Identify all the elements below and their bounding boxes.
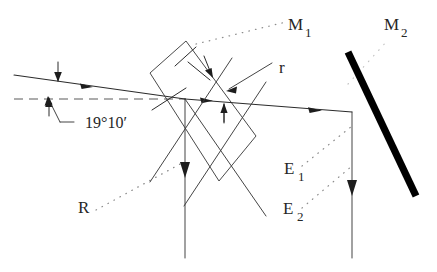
construction-line-c xyxy=(185,99,266,216)
mirror-m1-label-base: M xyxy=(288,15,303,34)
mirror-m1-label-sub: 1 xyxy=(305,25,312,40)
reflected-beam-label: R xyxy=(78,198,90,217)
mirror-m2-label-base: M xyxy=(384,15,399,34)
guide-to-e1 xyxy=(302,126,352,166)
screen-e1-label-base: E xyxy=(284,159,294,178)
screen-e1-label-sub: 1 xyxy=(298,169,305,184)
guide-to-r xyxy=(96,163,182,210)
screen-e1-label: E 1 xyxy=(284,159,305,184)
mirror-m1-label: M 1 xyxy=(288,15,312,40)
angle-of-incidence-marker xyxy=(45,62,74,122)
mirror-m2-label-sub: 2 xyxy=(401,25,408,40)
screen-e2-label: E 2 xyxy=(283,199,304,224)
optics-diagram-canvas: 19°10′ r M 1 M 2 E 1 E 2 R xyxy=(0,0,437,272)
mirror-m2-label: M 2 xyxy=(384,15,408,40)
normal-tick-entry xyxy=(175,47,196,66)
construction-line-a xyxy=(150,58,232,182)
vertical-beam-right xyxy=(347,112,357,258)
optics-diagram-figure: 19°10′ r M 1 M 2 E 1 E 2 R xyxy=(0,0,437,272)
emergent-ray xyxy=(185,98,352,114)
mirror-m1 xyxy=(348,52,416,196)
glass-plate xyxy=(150,41,256,181)
refracted-ray-label: r xyxy=(279,58,285,77)
guide-to-m1 xyxy=(196,22,286,44)
construction-lines xyxy=(150,58,266,216)
guide-to-e2 xyxy=(302,166,352,208)
construction-line-b xyxy=(184,82,266,206)
screen-e2-label-base: E xyxy=(283,199,293,218)
screen-e2-label-sub: 2 xyxy=(297,209,304,224)
angle-of-incidence-label: 19°10′ xyxy=(85,114,127,131)
surface-normals xyxy=(152,47,224,123)
